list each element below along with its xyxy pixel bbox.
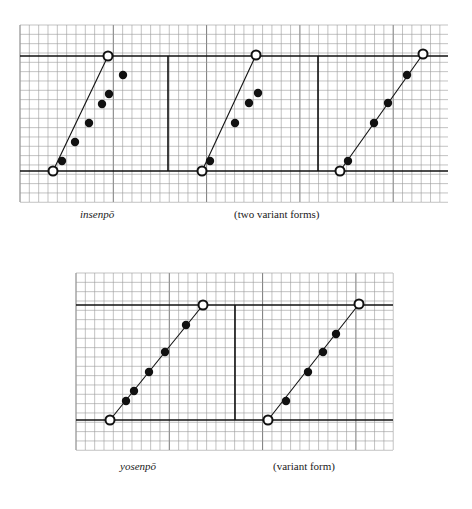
filled-dot bbox=[282, 397, 290, 405]
slope-line bbox=[202, 55, 256, 171]
filled-dot bbox=[182, 321, 190, 329]
top-diagram bbox=[20, 25, 448, 202]
filled-dot bbox=[254, 89, 262, 97]
filled-dot bbox=[71, 138, 79, 146]
filled-dot bbox=[384, 99, 392, 107]
filled-dot bbox=[98, 100, 106, 108]
filled-dot bbox=[304, 368, 312, 376]
open-circle-start bbox=[336, 167, 345, 176]
open-circle-end bbox=[355, 300, 364, 309]
filled-dot bbox=[119, 71, 127, 79]
filled-dot bbox=[319, 348, 327, 356]
top-grid bbox=[20, 25, 448, 202]
open-circle-end bbox=[104, 52, 113, 61]
filled-dot bbox=[130, 387, 138, 395]
bottom-diagram bbox=[76, 273, 393, 450]
open-circle-start bbox=[198, 167, 207, 176]
open-circle-end bbox=[199, 301, 208, 310]
open-circle-start bbox=[49, 167, 58, 176]
filled-dot bbox=[231, 119, 239, 127]
filled-dot bbox=[370, 119, 378, 127]
filled-dot bbox=[145, 368, 153, 376]
bottom-label-right: (variant form) bbox=[273, 460, 335, 472]
insenpo-form-3 bbox=[336, 50, 428, 176]
yosenpo-form-1 bbox=[106, 301, 208, 425]
open-circle-end bbox=[252, 51, 261, 60]
filled-dot bbox=[58, 157, 66, 165]
open-circle-start bbox=[106, 416, 115, 425]
top-label-right: (two variant forms) bbox=[234, 208, 320, 220]
yosenpo-form-2 bbox=[264, 300, 364, 425]
filled-dot bbox=[206, 157, 214, 165]
filled-dot bbox=[403, 71, 411, 79]
filled-dot bbox=[161, 348, 169, 356]
insenpo-form-2 bbox=[198, 51, 263, 176]
diagram-canvas bbox=[0, 0, 472, 509]
bottom-label-left: yosenpō bbox=[120, 460, 156, 472]
open-circle-start bbox=[264, 416, 273, 425]
open-circle-end bbox=[419, 50, 428, 59]
filled-dot bbox=[105, 90, 113, 98]
filled-dot bbox=[122, 397, 130, 405]
insenpo-form-1 bbox=[49, 52, 128, 176]
filled-dot bbox=[85, 119, 93, 127]
slope-line bbox=[268, 304, 359, 420]
filled-dot bbox=[344, 157, 352, 165]
slope-line bbox=[53, 56, 108, 171]
filled-dot bbox=[245, 99, 253, 107]
top-label-left: insenpō bbox=[80, 208, 114, 220]
filled-dot bbox=[332, 330, 340, 338]
